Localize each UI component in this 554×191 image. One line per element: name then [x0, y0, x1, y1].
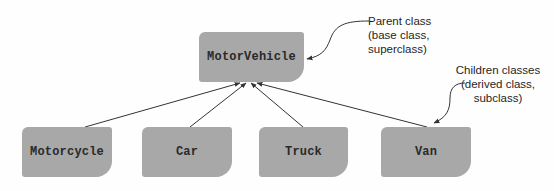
parent-class-annotation: Parent class (base class, superclass) — [368, 14, 468, 56]
children-annotation-line-1: Children classes — [442, 63, 554, 77]
children-class-annotation: Children classes (derived class, subclas… — [442, 63, 554, 105]
class-label-car: Car — [176, 145, 198, 159]
class-label-truck: Truck — [285, 145, 322, 159]
class-box-van: Van — [381, 127, 471, 177]
class-box-motorcycle: Motorcycle — [22, 127, 112, 177]
class-label-van: Van — [415, 145, 437, 159]
class-label-motorcycle: Motorcycle — [30, 145, 104, 159]
link-motorcycle — [85, 83, 240, 127]
link-van — [257, 83, 427, 127]
children-annotation-line-2: (derived class, — [442, 77, 554, 91]
parent-annotation-line-2: (base class, — [368, 28, 468, 42]
class-box-truck: Truck — [259, 127, 348, 177]
children-annotation-line-3: subclass) — [442, 91, 554, 105]
parent-annotation-line-3: superclass) — [368, 42, 468, 56]
diagram-canvas: MotorVehicle Parent class (base class, s… — [0, 0, 554, 191]
parent-annotation-line-1: Parent class — [368, 14, 468, 28]
class-box-car: Car — [142, 127, 232, 177]
parent-annotation-pointer — [307, 21, 369, 59]
class-label-motorvehicle: MotorVehicle — [207, 50, 296, 64]
link-truck — [251, 83, 303, 127]
class-box-motorvehicle: MotorVehicle — [199, 32, 304, 82]
